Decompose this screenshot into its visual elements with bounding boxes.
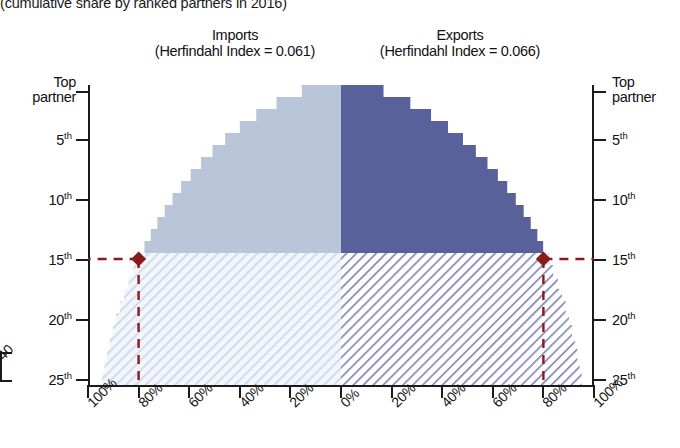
- chart-canvas: (cumulative share by ranked partners in …: [0, 0, 680, 448]
- y-tick-right-5: [594, 139, 606, 141]
- y-label-left-5: 5th: [56, 130, 72, 148]
- y-tick-left-5: [76, 139, 88, 141]
- y-tick-right-10: [594, 199, 606, 201]
- y-label-left-top-partner: Toppartner: [32, 75, 76, 104]
- exports-herfindahl-label: (Herfindahl Index = 0.066): [345, 44, 575, 60]
- y-label-left-20: 20th: [49, 310, 72, 328]
- y-tick-left-15: [76, 259, 88, 261]
- imports-panel-name: Imports: [120, 28, 350, 44]
- chart-svg: [88, 85, 594, 385]
- exports-lower-area: [341, 253, 582, 385]
- y-label-right-10: 10th: [612, 190, 635, 208]
- imports-upper-area: [139, 85, 341, 265]
- y-label-left-25: 25th: [49, 370, 72, 388]
- y-tick-left-10: [76, 199, 88, 201]
- y-tick-right-20: [594, 319, 606, 321]
- exports-panel-title: Exports (Herfindahl Index = 0.066): [345, 28, 575, 59]
- y-tick-left-25: [76, 379, 88, 381]
- imports-lower-area: [102, 253, 341, 385]
- y-label-left-10: 10th: [49, 190, 72, 208]
- y-tick-right-25: [594, 379, 606, 381]
- imports-herfindahl-label: (Herfindahl Index = 0.061): [120, 44, 350, 60]
- y-tick-left-20: [76, 319, 88, 321]
- y-tick-right-top-partner: [594, 91, 606, 93]
- y-tick-right-15: [594, 259, 606, 261]
- y-tick-left-top-partner: [76, 91, 88, 93]
- exports-panel-name: Exports: [345, 28, 575, 44]
- y-label-right-15: 15th: [612, 250, 635, 268]
- y-label-right-20: 20th: [612, 310, 635, 328]
- plot-area: [88, 85, 594, 385]
- chart-suptitle: (cumulative share by ranked partners in …: [0, 0, 420, 11]
- y-label-right-top-partner: Toppartner: [612, 75, 656, 104]
- y-label-left-15: 15th: [49, 250, 72, 268]
- imports-panel-title: Imports (Herfindahl Index = 0.061): [120, 28, 350, 59]
- clipped-edge-tick-label: 40: [0, 341, 16, 363]
- exports-upper-area: [341, 85, 548, 265]
- y-label-right-5: 5th: [612, 130, 628, 148]
